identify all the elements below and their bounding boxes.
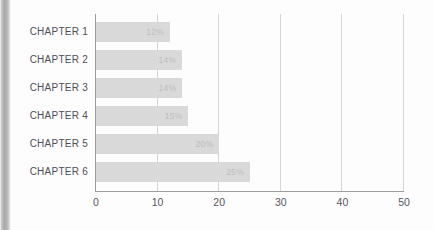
bar-row: 14% bbox=[96, 78, 404, 98]
category-axis-labels: CHAPTER 1 CHAPTER 2 CHAPTER 3 CHAPTER 4 … bbox=[0, 14, 88, 191]
x-tick-label: 30 bbox=[261, 194, 301, 210]
bar-row: 12% bbox=[96, 22, 404, 42]
x-tick-label: 40 bbox=[322, 194, 362, 210]
bar-value-label: 14% bbox=[159, 50, 177, 70]
category-label: CHAPTER 1 bbox=[0, 22, 88, 42]
bar-value-label: 25% bbox=[226, 162, 244, 182]
bar-value-label: 14% bbox=[159, 78, 177, 98]
bar-row: 15% bbox=[96, 106, 404, 126]
x-tick-label: 0 bbox=[76, 194, 116, 210]
x-tick-label: 10 bbox=[138, 194, 178, 210]
bar-chapter-6[interactable]: 25% bbox=[96, 162, 250, 182]
x-tick-label: 50 bbox=[384, 194, 424, 210]
x-axis-line bbox=[95, 191, 404, 192]
bar-chart: CHAPTER 1 CHAPTER 2 CHAPTER 3 CHAPTER 4 … bbox=[0, 0, 433, 230]
category-label: CHAPTER 4 bbox=[0, 106, 88, 126]
bar-chapter-2[interactable]: 14% bbox=[96, 50, 182, 70]
category-label: CHAPTER 2 bbox=[0, 50, 88, 70]
bar-row: 25% bbox=[96, 162, 404, 182]
category-label: CHAPTER 5 bbox=[0, 134, 88, 154]
bar-value-label: 12% bbox=[146, 22, 164, 42]
category-label: CHAPTER 6 bbox=[0, 162, 88, 182]
bar-chapter-1[interactable]: 12% bbox=[96, 22, 170, 42]
x-axis-tick-labels: 0 10 20 30 40 50 bbox=[0, 194, 433, 214]
bar-row: 20% bbox=[96, 134, 404, 154]
x-tick-label: 20 bbox=[199, 194, 239, 210]
bar-row: 14% bbox=[96, 50, 404, 70]
category-label: CHAPTER 3 bbox=[0, 78, 88, 98]
bar-chapter-5[interactable]: 20% bbox=[96, 134, 219, 154]
bar-value-label: 20% bbox=[196, 134, 214, 154]
bar-chapter-3[interactable]: 14% bbox=[96, 78, 182, 98]
bar-value-label: 15% bbox=[165, 106, 183, 126]
bar-chapter-4[interactable]: 15% bbox=[96, 106, 188, 126]
bars-layer: 12% 14% 14% 15% 20% 25% bbox=[96, 14, 404, 191]
